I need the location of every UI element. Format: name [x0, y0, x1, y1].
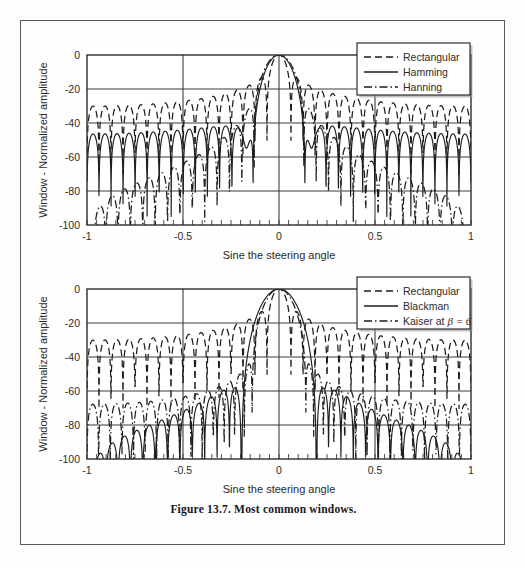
y-tick-label: -100: [59, 219, 80, 231]
y-tick-label: -40: [65, 351, 80, 363]
y-axis-ticks: 0-20-40-60-80-100: [59, 49, 80, 231]
x-tick-label: 0: [276, 230, 282, 242]
legend-label: Rectangular: [403, 51, 460, 63]
x-axis-title: Sine the steering angle: [223, 483, 336, 495]
figure-body: 0-20-40-60-80-100-1-0.500.51Sine the ste…: [21, 21, 506, 546]
legend-1: RectangularHammingHanning: [357, 43, 473, 98]
chart-svg: 0-20-40-60-80-100-1-0.500.51Sine the ste…: [21, 33, 506, 273]
legend-label: Hamming: [403, 66, 448, 78]
x-tick-label: 1: [468, 230, 474, 242]
minor-tick-marks: [87, 454, 471, 459]
y-tick-label: -20: [65, 83, 80, 95]
y-tick-label: -20: [65, 317, 80, 329]
chart-svg: 0-20-40-60-80-100-1-0.500.51Sine the ste…: [21, 267, 506, 507]
y-axis-title: Window - Normalized amplitude: [37, 296, 49, 451]
x-tick-label: -1: [82, 230, 91, 242]
y-tick-label: 0: [74, 49, 80, 61]
chart-top-hamming-hanning: 0-20-40-60-80-100-1-0.500.51Sine the ste…: [21, 33, 506, 273]
y-axis-ticks: 0-20-40-60-80-100: [59, 283, 80, 465]
x-tick-label: -0.5: [174, 230, 192, 242]
x-tick-label: 1: [468, 464, 474, 476]
figure-outer-border: 0-20-40-60-80-100-1-0.500.51Sine the ste…: [20, 20, 505, 545]
y-tick-label: -80: [65, 419, 80, 431]
y-tick-label: -60: [65, 385, 80, 397]
legend-label: Rectangular: [403, 285, 460, 297]
chart-bottom-blackman-kaiser: 0-20-40-60-80-100-1-0.500.51Sine the ste…: [21, 267, 506, 507]
x-tick-label: 0.5: [368, 230, 383, 242]
legend-label: Blackman: [403, 300, 449, 312]
legend-label: Hanning: [403, 81, 442, 93]
y-tick-label: -80: [65, 185, 80, 197]
x-tick-label: 0.5: [368, 464, 383, 476]
x-tick-label: -1: [82, 464, 91, 476]
x-axis-ticks: -1-0.500.51: [82, 464, 474, 476]
y-tick-label: -40: [65, 117, 80, 129]
x-axis-title: Sine the steering angle: [223, 249, 336, 261]
y-tick-label: 0: [74, 283, 80, 295]
y-axis-title: Window - Normalized amplitude: [37, 62, 49, 217]
minor-tick-marks: [87, 220, 471, 225]
figure-page: 0-20-40-60-80-100-1-0.500.51Sine the ste…: [0, 0, 525, 568]
figure-caption: Figure 13.7. Most common windows.: [21, 503, 506, 515]
legend-2: RectangularBlackmanKaiser atβ = 6: [357, 277, 473, 332]
y-tick-label: -100: [59, 453, 80, 465]
x-tick-label: 0: [276, 464, 282, 476]
legend-label: Kaiser atβ = 6: [403, 315, 472, 327]
x-tick-label: -0.5: [174, 464, 192, 476]
y-tick-label: -60: [65, 151, 80, 163]
x-axis-ticks: -1-0.500.51: [82, 230, 474, 242]
